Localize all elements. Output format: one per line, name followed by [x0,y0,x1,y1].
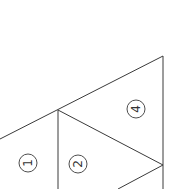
region-label-1-text: 1 [21,159,35,167]
region-label-4: 4 [127,100,145,118]
triangle-diagram: 1 2 4 [0,0,173,189]
region-label-2-text: 2 [71,160,85,168]
region-label-4-text: 4 [129,105,143,113]
region-label-2: 2 [69,155,87,173]
inner-diagonal-lower-line [118,165,163,189]
top-edge-line [0,56,163,139]
region-label-1: 1 [19,154,37,172]
